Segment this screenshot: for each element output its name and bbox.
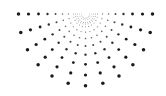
dot: [81, 14, 82, 15]
dot: [105, 26, 107, 28]
dot: [141, 12, 144, 15]
dot: [108, 56, 111, 59]
dot: [87, 22, 88, 23]
dot: [68, 18, 69, 19]
dot: [63, 36, 65, 38]
dot: [82, 16, 83, 17]
dot: [97, 26, 98, 27]
dot: [73, 13, 74, 14]
dot: [111, 42, 113, 44]
dot: [51, 48, 54, 51]
dot: [77, 16, 78, 17]
dot: [85, 32, 86, 33]
dot: [51, 33, 53, 35]
dot: [100, 41, 102, 43]
dot: [27, 12, 30, 15]
dot: [142, 48, 146, 52]
dot: [85, 45, 87, 47]
dot: [66, 82, 70, 86]
dot: [139, 28, 142, 31]
dot: [89, 14, 90, 15]
dot: [96, 35, 98, 37]
dot: [85, 24, 86, 25]
dot: [121, 23, 123, 25]
dot: [75, 20, 76, 21]
dot: [148, 31, 152, 35]
dot: [117, 48, 120, 51]
dot: [84, 18, 85, 19]
dot: [87, 17, 88, 18]
dot: [91, 16, 92, 17]
dot: [103, 48, 105, 50]
dot: [80, 16, 81, 17]
dot: [151, 12, 155, 16]
dot: [37, 13, 40, 16]
dot: [56, 21, 58, 23]
dot: [74, 52, 76, 54]
dot: [78, 18, 79, 19]
dot: [76, 29, 77, 30]
dot: [93, 23, 94, 24]
dot: [83, 22, 84, 23]
dot: [112, 65, 115, 68]
dot: [86, 18, 87, 19]
dot: [62, 13, 64, 15]
dot: [68, 13, 69, 14]
dot: [91, 37, 93, 39]
dot: [55, 65, 58, 68]
dot: [89, 21, 90, 22]
dot: [133, 43, 136, 46]
dot: [91, 20, 92, 21]
dot: [89, 15, 90, 16]
dot: [57, 42, 59, 44]
dot: [82, 23, 83, 24]
dot: [95, 14, 96, 15]
dot: [26, 48, 30, 52]
dot: [85, 22, 86, 23]
dot: [36, 63, 40, 67]
dot: [89, 18, 90, 19]
dot: [117, 74, 121, 78]
dot: [88, 23, 89, 24]
dot: [94, 19, 95, 20]
dot: [82, 17, 83, 18]
dot: [92, 21, 93, 22]
dot: [70, 41, 72, 43]
dot-rays: [17, 12, 155, 87]
dot: [85, 38, 87, 40]
dot: [81, 15, 82, 16]
dot: [92, 18, 93, 19]
dot: [102, 13, 103, 14]
dot: [19, 31, 23, 35]
dot: [99, 71, 102, 74]
dot: [82, 26, 83, 27]
dot: [75, 16, 76, 17]
dot: [73, 35, 75, 37]
dot: [50, 74, 54, 78]
dot: [108, 13, 110, 15]
dot: [59, 29, 61, 31]
dot: [85, 26, 86, 27]
dot: [80, 31, 81, 32]
dot: [39, 26, 42, 29]
dot: [79, 14, 80, 15]
dot: [100, 22, 101, 23]
dot: [79, 25, 80, 26]
dot: [81, 18, 82, 19]
dot: [124, 56, 127, 59]
dot: [35, 43, 38, 46]
dot: [44, 56, 47, 59]
dot: [110, 29, 112, 31]
dot: [70, 22, 71, 23]
sunburst-dot-illustration: [0, 0, 166, 96]
dot: [93, 16, 94, 17]
dot: [65, 26, 67, 28]
dot: [88, 17, 89, 18]
dot: [61, 56, 64, 59]
dot: [83, 17, 84, 18]
dot: [88, 26, 89, 27]
dot: [115, 13, 117, 15]
dot: [84, 84, 88, 88]
dot: [130, 26, 133, 29]
dot: [77, 44, 79, 46]
